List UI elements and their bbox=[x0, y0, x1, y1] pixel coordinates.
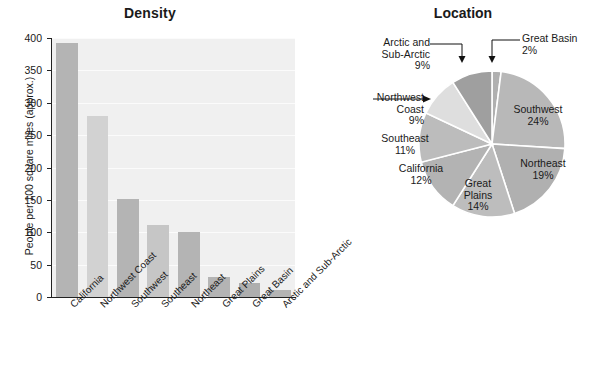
y-axis-tick-mark bbox=[47, 200, 51, 201]
grid-line bbox=[52, 103, 295, 104]
great-basin-arrowhead bbox=[489, 56, 496, 63]
pie-label-southwest-pct: 24% bbox=[527, 115, 548, 127]
pie-label-arctic-name2: Sub-Arctic bbox=[382, 48, 430, 60]
y-axis-tick-mark bbox=[47, 38, 51, 39]
great-basin-leader-line bbox=[492, 40, 520, 57]
arctic-leader-line bbox=[430, 44, 462, 57]
bar-california bbox=[56, 43, 78, 297]
pie-label-california-pct: 12% bbox=[410, 174, 431, 186]
northwest-coast-arrowhead bbox=[423, 96, 431, 103]
pie-label-arctic-sub-arctic: Arctic and Sub-Arctic 9% bbox=[356, 37, 430, 72]
pie-label-northwest-coast-name1: Northwest bbox=[377, 91, 424, 103]
y-axis-tick-mark bbox=[47, 70, 51, 71]
pie-label-northeast-pct: 19% bbox=[532, 169, 553, 181]
pie-label-great-plains-name2: Plains bbox=[464, 189, 493, 201]
pie-label-northwest-coast: Northwest Coast 9% bbox=[332, 92, 424, 127]
y-axis-tick-mark bbox=[47, 135, 51, 136]
pie-label-california-name: California bbox=[399, 162, 443, 174]
y-axis-tick-mark bbox=[47, 297, 51, 298]
bar-northwest-coast bbox=[87, 116, 109, 297]
y-axis-tick-label: 150 bbox=[8, 195, 42, 205]
y-axis-tick-label: 100 bbox=[8, 227, 42, 237]
bar-plot-area bbox=[52, 38, 295, 297]
density-bar-chart: Density People per 100 square miles (app… bbox=[0, 0, 330, 384]
y-axis-tick-label: 250 bbox=[8, 130, 42, 140]
pie-label-great-plains-name1: Great bbox=[465, 177, 491, 189]
two-chart-figure: Density People per 100 square miles (app… bbox=[0, 0, 595, 384]
pie-label-southeast-pct: 11% bbox=[395, 144, 415, 156]
pie-label-california: California 12% bbox=[378, 163, 464, 186]
y-axis-tick-mark bbox=[47, 265, 51, 266]
pie-label-southeast-name: Southeast bbox=[381, 132, 428, 144]
pie-label-great-plains-pct: 14% bbox=[467, 200, 488, 212]
y-axis-tick-mark bbox=[47, 232, 51, 233]
pie-label-great-basin: Great Basin 2% bbox=[522, 33, 577, 56]
pie-label-southwest: Southwest 24% bbox=[486, 104, 590, 127]
location-pie-chart: Location Southwest 24% Northeast 19% bbox=[330, 0, 595, 384]
y-axis-tick-label: 350 bbox=[8, 65, 42, 75]
pie-label-northeast: Northeast 19% bbox=[495, 158, 591, 181]
grid-line bbox=[52, 70, 295, 71]
y-axis-tick-label: 50 bbox=[8, 260, 42, 270]
grid-line bbox=[52, 38, 295, 39]
y-axis-tick-label: 200 bbox=[8, 163, 42, 173]
pie-label-great-basin-name: Great Basin bbox=[522, 32, 577, 44]
arctic-arrowhead bbox=[459, 56, 466, 63]
y-axis-line bbox=[51, 38, 52, 298]
pie-label-southwest-name: Southwest bbox=[513, 103, 562, 115]
pie-label-northeast-name: Northeast bbox=[520, 157, 566, 169]
pie-label-southeast: Southeast 11% bbox=[362, 133, 448, 156]
pie-label-arctic-name1: Arctic and bbox=[383, 36, 430, 48]
pie-label-northwest-coast-pct: 9% bbox=[409, 114, 424, 126]
bar-chart-title: Density bbox=[0, 5, 300, 21]
y-axis-tick-label: 300 bbox=[8, 98, 42, 108]
y-axis-tick-label: 400 bbox=[8, 33, 42, 43]
y-axis-tick-mark bbox=[47, 103, 51, 104]
y-axis-tick-mark bbox=[47, 168, 51, 169]
pie-label-great-basin-pct: 2% bbox=[522, 44, 537, 56]
pie-label-arctic-pct: 9% bbox=[415, 59, 430, 71]
y-axis-tick-label: 0 bbox=[8, 292, 42, 302]
pie-label-northwest-coast-name2: Coast bbox=[397, 103, 424, 115]
